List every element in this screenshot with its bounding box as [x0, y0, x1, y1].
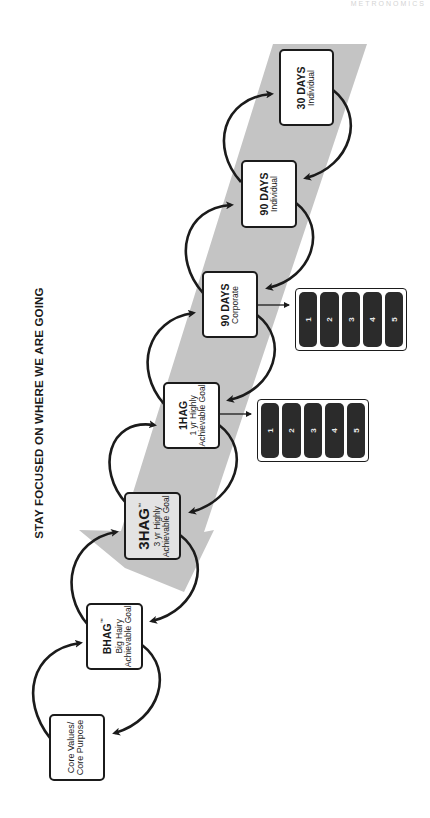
- priority-item: 2: [320, 292, 338, 347]
- step-core-values: Core Values/ Core Purpose: [49, 714, 105, 781]
- priority-panel-1hag: 1 2 3 4 5: [257, 399, 369, 462]
- step-bhag: BHAG™ Big Hairy Achievable Goal: [86, 603, 143, 670]
- priority-item: 3: [342, 292, 360, 347]
- trademark-mark: ™: [137, 503, 143, 508]
- step-title: 90 DAYS: [259, 173, 270, 216]
- step-subtitle: Core Purpose: [77, 720, 86, 776]
- diagram-title: STAY FOCUSED ON WHERE WE ARE GOING: [30, 314, 48, 512]
- step-subtitle: Corporate: [231, 286, 240, 324]
- priority-item: 2: [282, 403, 300, 458]
- priority-item: 4: [325, 403, 343, 458]
- step-subtitle: Big Hairy: [114, 619, 123, 653]
- priority-item: 3: [304, 403, 322, 458]
- priority-item: 4: [363, 292, 381, 347]
- trademark-mark: ™: [99, 619, 105, 624]
- step-title: BHAG: [100, 624, 112, 655]
- step-1hag: 1HAG 1 yr Highly Achievable Goal: [163, 382, 220, 449]
- step-title: 1HAG: [177, 401, 188, 430]
- step-90-days-corporate: 90 DAYS Corporate: [202, 271, 258, 338]
- step-subtitle: Individual: [308, 70, 317, 106]
- step-90-days-individual: 90 DAYS Individual: [241, 160, 297, 228]
- priority-item: 5: [347, 403, 365, 458]
- priority-panel-corporate: 1 2 3 4 5: [295, 288, 407, 351]
- step-subtitle: 3 yr Highly: [152, 506, 161, 546]
- step-3hag: 3HAG™ 3 yr Highly Achievable Goal: [124, 492, 181, 560]
- step-subtitle-2: Achievable Goal: [197, 385, 206, 447]
- step-title: 3HAG: [134, 508, 151, 550]
- step-subtitle-2: Achievable Goal: [123, 606, 132, 668]
- step-subtitle: Individual: [270, 176, 279, 212]
- step-subtitle-2: Achievable Goal: [161, 495, 170, 557]
- priority-item: 1: [299, 292, 317, 347]
- priority-item: 5: [385, 292, 403, 347]
- step-30-days-individual: 30 DAYS Individual: [279, 49, 334, 126]
- step-title: 90 DAYS: [220, 283, 231, 326]
- priority-item: 1: [261, 403, 279, 458]
